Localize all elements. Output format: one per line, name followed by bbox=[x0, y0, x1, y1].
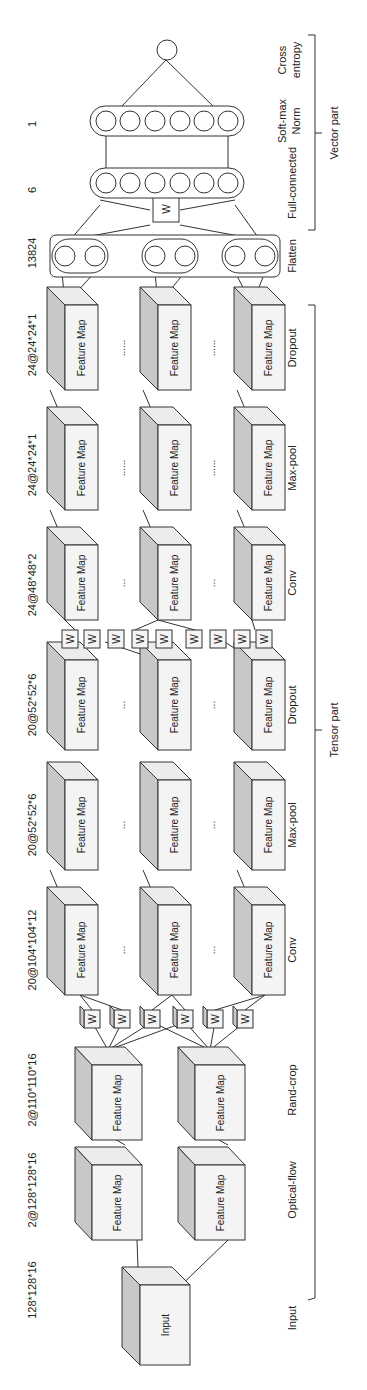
ellipsis: ... bbox=[206, 946, 217, 954]
feature-map-cube: Feature Map bbox=[178, 1047, 245, 1140]
feature-map-cube: Feature Map bbox=[178, 1147, 245, 1240]
ellipsis: ... bbox=[206, 579, 217, 587]
weight-box: W bbox=[62, 630, 78, 648]
feature-map-cube: Feature Map bbox=[234, 887, 285, 995]
svg-text:W: W bbox=[210, 1014, 221, 1024]
label-dropout2: Dropout bbox=[286, 328, 298, 367]
weight-box: W bbox=[210, 630, 226, 648]
softmax-layer bbox=[90, 106, 244, 136]
weight-box: W bbox=[173, 1006, 193, 1028]
label-softmax-2: Norm bbox=[290, 108, 302, 135]
ellipsis: ...... bbox=[116, 340, 127, 357]
feature-map-cube: Feature Map bbox=[75, 1147, 142, 1240]
input-cube: Input bbox=[122, 1267, 190, 1365]
svg-text:W: W bbox=[147, 1014, 158, 1024]
svg-text:W: W bbox=[111, 634, 122, 644]
feature-map-cube: Feature Map bbox=[140, 527, 191, 620]
svg-text:Feature Map: Feature Map bbox=[169, 439, 180, 496]
label-maxpool1: Max-pool bbox=[286, 802, 298, 847]
tensor-part-bracket: Tensor part bbox=[308, 305, 340, 1300]
maxpool1-cubes: Feature Map ... Feature Map ... Feature … bbox=[47, 762, 285, 870]
svg-text:Feature Map: Feature Map bbox=[112, 1074, 123, 1131]
optical-flow-cubes: Feature Map Feature Map bbox=[75, 1147, 245, 1240]
svg-text:W: W bbox=[189, 634, 200, 644]
svg-text:Feature Map: Feature Map bbox=[169, 676, 180, 733]
svg-text:Feature Map: Feature Map bbox=[76, 439, 87, 496]
label-dropout1: Dropout bbox=[286, 685, 298, 724]
dim-input: 128*128*16 bbox=[26, 1261, 38, 1319]
feature-map-cube: Feature Map bbox=[47, 642, 98, 750]
svg-text:Feature Map: Feature Map bbox=[169, 796, 180, 853]
svg-text:Feature Map: Feature Map bbox=[215, 1074, 226, 1131]
svg-text:Feature Map: Feature Map bbox=[263, 921, 274, 978]
svg-text:W: W bbox=[87, 1014, 98, 1024]
flatten-layer bbox=[50, 235, 280, 277]
svg-text:Feature Map: Feature Map bbox=[263, 319, 274, 376]
svg-text:W: W bbox=[159, 634, 170, 644]
svg-text:Feature Map: Feature Map bbox=[169, 319, 180, 376]
fc-weight-box: W bbox=[153, 196, 179, 222]
feature-map-cube: Feature Map bbox=[47, 887, 98, 995]
feature-map-cube: Feature Map bbox=[234, 642, 285, 750]
ellipsis: ... bbox=[206, 701, 217, 709]
dim-softmax: 1 bbox=[26, 121, 38, 127]
feature-map-cube: Feature Map bbox=[75, 1047, 142, 1140]
weights-row-1: W W W W W W bbox=[80, 1006, 253, 1028]
maxpool2-cubes: Feature Map ...... Feature Map ...... Fe… bbox=[47, 407, 285, 510]
rand-crop-cubes: Feature Map Feature Map bbox=[75, 1047, 245, 1140]
dropout1-cubes: Feature Map ... Feature Map ... Feature … bbox=[47, 642, 285, 750]
svg-text:Feature Map: Feature Map bbox=[215, 1174, 226, 1231]
conv1-cubes: Feature Map ... Feature Map ... Feature … bbox=[47, 887, 285, 995]
weight-box: W bbox=[234, 630, 250, 648]
dim-flatten: 13824 bbox=[26, 238, 38, 269]
svg-text:Feature Map: Feature Map bbox=[263, 676, 274, 733]
dim-conv2: 24@48*48*2 bbox=[26, 554, 38, 617]
weight-box: W bbox=[203, 1006, 223, 1028]
ellipsis: ...... bbox=[206, 460, 217, 477]
svg-text:Feature Map: Feature Map bbox=[76, 554, 87, 611]
svg-text:Feature Map: Feature Map bbox=[76, 676, 87, 733]
dimension-labels: 128*128*16 2@128*128*16 2@110*110*16 20@… bbox=[26, 121, 38, 1319]
feature-map-cube: Feature Map bbox=[234, 287, 285, 390]
label-conv1: Conv bbox=[286, 937, 298, 963]
svg-text:W: W bbox=[65, 634, 76, 644]
label-fc: Full-connected bbox=[286, 147, 298, 219]
input-cube-label: Input bbox=[160, 1314, 171, 1336]
svg-text:Feature Map: Feature Map bbox=[263, 554, 274, 611]
feature-map-cube: Feature Map bbox=[234, 407, 285, 510]
feature-map-cube: Feature Map bbox=[140, 407, 191, 510]
svg-text:Feature Map: Feature Map bbox=[169, 921, 180, 978]
dropout2-cubes: Feature Map ...... Feature Map ...... Fe… bbox=[47, 287, 285, 390]
weight-box: W bbox=[186, 630, 202, 648]
output-node bbox=[157, 40, 177, 60]
dim-fc: 6 bbox=[26, 187, 38, 193]
feature-map-cube: Feature Map bbox=[140, 287, 191, 390]
svg-text:Feature Map: Feature Map bbox=[76, 796, 87, 853]
label-conv2: Conv bbox=[286, 570, 298, 596]
weight-box: W bbox=[80, 1006, 100, 1028]
dim-dropout2: 24@24*24*1 bbox=[26, 314, 38, 377]
svg-text:Feature Map: Feature Map bbox=[263, 796, 274, 853]
svg-text:W: W bbox=[213, 634, 224, 644]
ellipsis: ... bbox=[116, 701, 127, 709]
feature-map-cube: Feature Map bbox=[47, 762, 98, 870]
dim-maxpool1: 20@52*52*6 bbox=[26, 794, 38, 857]
weight-box: W bbox=[84, 630, 100, 648]
label-flatten: Flatten bbox=[286, 239, 298, 273]
vector-part-label: Vector part bbox=[328, 106, 340, 159]
label-optical-flow: Optical-flow bbox=[286, 1161, 298, 1219]
feature-map-cube: Feature Map bbox=[140, 642, 191, 750]
ellipsis: ... bbox=[116, 821, 127, 829]
feature-map-cube: Feature Map bbox=[47, 407, 98, 510]
label-input: Input bbox=[286, 1306, 298, 1330]
vector-part-bracket: Vector part bbox=[308, 35, 340, 230]
feature-map-cube: Feature Map bbox=[140, 887, 191, 995]
dim-conv1: 20@104*104*12 bbox=[26, 910, 38, 991]
fc-layer bbox=[90, 168, 244, 198]
label-maxpool2: Max-pool bbox=[286, 445, 298, 490]
feature-map-cube: Feature Map bbox=[234, 762, 285, 870]
label-cross-2: entropy bbox=[290, 41, 302, 78]
feature-map-cube: Feature Map bbox=[47, 527, 98, 620]
dim-optical-flow: 2@128*128*16 bbox=[26, 1153, 38, 1228]
weight-box: W bbox=[256, 630, 272, 648]
